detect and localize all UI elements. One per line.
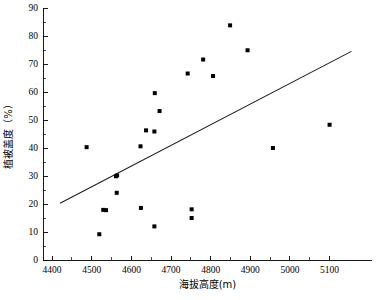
x-axis-tick-label: 4600 [122,265,141,275]
x-axis-tick-label: 4900 [241,265,260,275]
x-axis-tick-label: 4500 [82,265,101,275]
x-axis-tick-labels: 44004500460047004800490050005100 [43,265,340,275]
x-axis-tick-label: 5100 [320,265,339,275]
x-axis-title: 海拔高度(m) [179,278,237,290]
y-axis-tick-label: 50 [29,115,39,125]
data-point-marker [246,48,250,52]
data-point-marker [152,224,156,228]
y-axis-tick-label: 0 [33,255,38,265]
data-point-marker [139,206,143,210]
data-point-marker [328,123,332,127]
data-point-marker [153,91,157,95]
data-point-marker [190,207,194,211]
chart-canvas: 0102030405060708090 44004500460047004800… [0,0,378,300]
data-point-marker [139,144,143,148]
regression-trend-line [60,51,351,203]
x-axis-tick-label: 4800 [201,265,220,275]
axis-tick-marks [43,8,330,260]
scatter-chart-figure: 0102030405060708090 44004500460047004800… [0,0,378,300]
y-axis-tick-label: 30 [29,171,39,181]
data-point-marker [85,145,89,149]
data-point-marker [271,146,275,150]
y-axis-tick-label: 10 [29,227,39,237]
trend-line-segment [60,51,351,203]
data-point-marker [144,128,148,132]
x-axis-tick-label: 5000 [280,265,299,275]
x-axis-tick-label: 4400 [43,265,62,275]
y-axis-tick-label: 70 [29,59,39,69]
data-points-group [85,23,332,236]
data-point-marker [115,173,119,177]
y-axis-tick-labels: 0102030405060708090 [29,3,39,265]
data-point-marker [190,216,194,220]
y-axis-title: 植被盖度（%） [2,99,14,169]
data-point-marker [152,129,156,133]
y-axis-tick-label: 90 [29,3,39,13]
data-point-marker [201,58,205,62]
y-axis-tick-label: 80 [29,31,39,41]
y-axis-tick-label: 20 [29,199,39,209]
axis-lines [43,8,372,260]
data-point-marker [211,74,215,78]
y-axis-tick-label: 60 [29,87,39,97]
y-axis-tick-label: 40 [29,143,39,153]
data-point-marker [158,109,162,113]
x-axis-tick-label: 4700 [162,265,181,275]
data-point-marker [186,72,190,76]
data-point-marker [115,191,119,195]
data-point-marker [97,232,101,236]
data-point-marker [104,208,108,212]
data-point-marker [228,23,232,27]
